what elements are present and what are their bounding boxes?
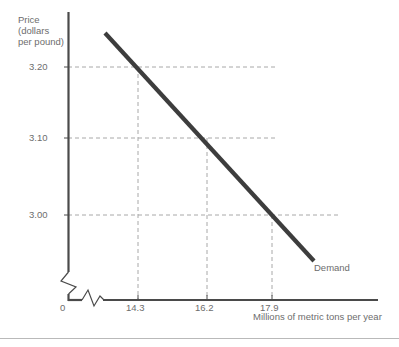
x-axis-break-mark [82, 290, 104, 306]
y-tick-label-3.00: 3.00 [29, 209, 48, 220]
figure-bottom-rule [0, 338, 399, 339]
demand-series-label: Demand [314, 262, 350, 273]
y-axis-title-line-3: per pound) [18, 36, 64, 47]
origin-label: 0 [60, 302, 65, 313]
y-axis [61, 12, 76, 301]
x-tick-label-16.2: 16.2 [195, 302, 214, 313]
y-axis-break-mark [61, 272, 76, 294]
y-tick-label-3.20: 3.20 [29, 61, 48, 72]
y-tick-label-3.10: 3.10 [29, 132, 48, 143]
vertical-gridlines [138, 67, 272, 300]
x-axis [68, 290, 378, 306]
demand-curve-figure: Price(dollarsper pound) 3.20 3.10 3.00 0… [0, 0, 399, 347]
y-axis-title-line-2: (dollars [18, 25, 49, 36]
y-axis-title-line-1: Price [18, 14, 40, 25]
y-axis-title: Price(dollarsper pound) [18, 14, 64, 47]
demand-curve-plot [0, 0, 399, 347]
x-tick-label-14.3: 14.3 [126, 302, 145, 313]
x-axis-title: Millions of metric tons per year [253, 311, 382, 322]
